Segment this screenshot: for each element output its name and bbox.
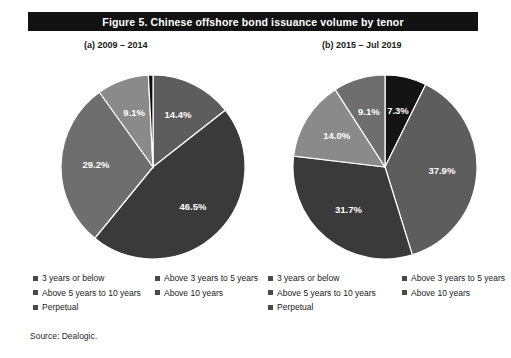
legend-swatch-icon [33, 276, 38, 281]
source-note: Source: Dealogic. [30, 331, 97, 341]
legend-swatch-icon [155, 276, 160, 281]
panel-a-subtitle: (a) 2009 – 2014 [84, 40, 148, 50]
legend-item-label: 3 years or below [42, 274, 104, 283]
legend-item-label: Perpetual [42, 303, 78, 312]
pie-slice-label: 31.7% [335, 204, 362, 215]
figure-title-bar: Figure 5. Chinese offshore bond issuance… [28, 12, 478, 31]
legend-swatch-icon [268, 276, 273, 281]
pie-slice-label: 9.1% [358, 106, 380, 117]
panel-a-legend-item: Above 3 years to 5 years [155, 274, 258, 283]
legend-item-label: 3 years or below [277, 274, 339, 283]
pie-slice-label: 29.2% [83, 159, 110, 170]
pie-slice-label: 46.5% [179, 201, 206, 212]
page-title: Figure 5. Chinese offshore bond issuance… [102, 16, 403, 28]
legend-swatch-icon [402, 276, 407, 281]
panel-a-legend-item: Above 5 years to 10 years [33, 289, 141, 298]
legend-swatch-icon [33, 290, 38, 295]
figure-container: Figure 5. Chinese offshore bond issuance… [0, 0, 511, 358]
panel-b-legend-item: Perpetual [268, 303, 388, 312]
panel-b-subtitle: (b) 2015 – Jul 2019 [322, 40, 402, 50]
legend-panel-a: 3 years or belowAbove 3 years to 5 years… [33, 274, 258, 312]
legend-swatch-icon [268, 290, 273, 295]
panel-a-legend-item: Perpetual [33, 303, 141, 312]
pie-slice-label: 14.0% [323, 130, 350, 141]
pie-chart-a-svg: 14.4%46.5%29.2%9.1%0.8% [60, 74, 246, 260]
panel-a-legend-item: 3 years or below [33, 274, 141, 283]
panel-b-legend-item: Above 3 years to 5 years [402, 274, 505, 283]
legend-swatch-icon [155, 290, 160, 295]
legend-item-label: Above 3 years to 5 years [164, 274, 258, 283]
panel-b-legend-item: Above 10 years [402, 289, 505, 298]
legend-panel-b: 3 years or belowAbove 3 years to 5 years… [268, 274, 505, 312]
pie-slice-label: 9.1% [123, 107, 145, 118]
pie-chart-b-svg: 7.3%37.9%31.7%14.0%9.1% [292, 74, 478, 260]
legend-swatch-icon [33, 305, 38, 310]
legend-item-label: Above 10 years [411, 289, 470, 298]
legend-swatch-icon [402, 290, 407, 295]
pie-slice-label: 37.9% [428, 165, 455, 176]
panel-a-legend-item: Above 10 years [155, 289, 258, 298]
legend-item-label: Above 10 years [164, 289, 223, 298]
panel-b-legend-item: 3 years or below [268, 274, 388, 283]
legend-item-label: Above 5 years to 10 years [277, 289, 376, 298]
legend-swatch-icon [268, 305, 273, 310]
pie-chart-a: 14.4%46.5%29.2%9.1%0.8% [60, 74, 246, 260]
legend-item-label: Perpetual [277, 303, 313, 312]
legend-item-label: Above 3 years to 5 years [411, 274, 505, 283]
pie-slice-label: 7.3% [387, 105, 409, 116]
legend-item-label: Above 5 years to 10 years [42, 289, 141, 298]
pie-slice-label: 14.4% [164, 109, 191, 120]
panel-b-legend-item: Above 5 years to 10 years [268, 289, 388, 298]
pie-chart-b: 7.3%37.9%31.7%14.0%9.1% [292, 74, 478, 260]
